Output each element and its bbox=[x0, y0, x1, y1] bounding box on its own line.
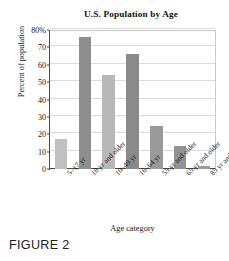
y-axis-tick-label: 80% bbox=[31, 26, 46, 35]
y-axis-tick-label: 30 bbox=[38, 112, 46, 121]
x-axis-title: Age category bbox=[49, 224, 216, 233]
y-axis-tick-label: 60 bbox=[38, 60, 46, 69]
x-axis-ticks: 5–17 yr18 yr and older10–49 yr16–64 yr55… bbox=[49, 171, 216, 231]
y-axis-tick-label: 20 bbox=[38, 130, 46, 139]
bar bbox=[126, 54, 138, 169]
bar bbox=[55, 139, 67, 169]
bar bbox=[79, 37, 91, 169]
x-axis-tick-label: 18 yr and older bbox=[89, 171, 95, 177]
y-axis-tick-label: 70 bbox=[38, 43, 46, 52]
x-axis-tick-label: 5–17 yr bbox=[65, 171, 71, 177]
bar-slot bbox=[144, 30, 168, 169]
y-axis-tick-label: 10 bbox=[38, 147, 46, 156]
x-axis-tick-label: 10–49 yr bbox=[113, 171, 119, 177]
bar-slot bbox=[73, 30, 97, 169]
chart-title: U.S. Population by Age bbox=[38, 9, 224, 19]
x-axis-tick-label: 55 yr and older bbox=[160, 171, 166, 177]
x-axis-tick-label: 16–64 yr bbox=[137, 171, 143, 177]
y-axis-tick-label: 0 bbox=[42, 165, 46, 174]
y-axis-tick-label: 40 bbox=[38, 95, 46, 104]
figure-caption: FIGURE 2 bbox=[9, 238, 69, 252]
x-axis-tick-label: 85 yr and older bbox=[208, 171, 214, 177]
y-axis-title: Percent of population bbox=[17, 7, 26, 117]
figure-container: U.S. Population by Age Percent of popula… bbox=[0, 0, 229, 261]
x-axis-tick-label: 65 yr and older bbox=[184, 171, 190, 177]
gridline bbox=[49, 28, 215, 29]
y-axis-tick-label: 50 bbox=[38, 78, 46, 87]
bar-slot bbox=[49, 30, 73, 169]
